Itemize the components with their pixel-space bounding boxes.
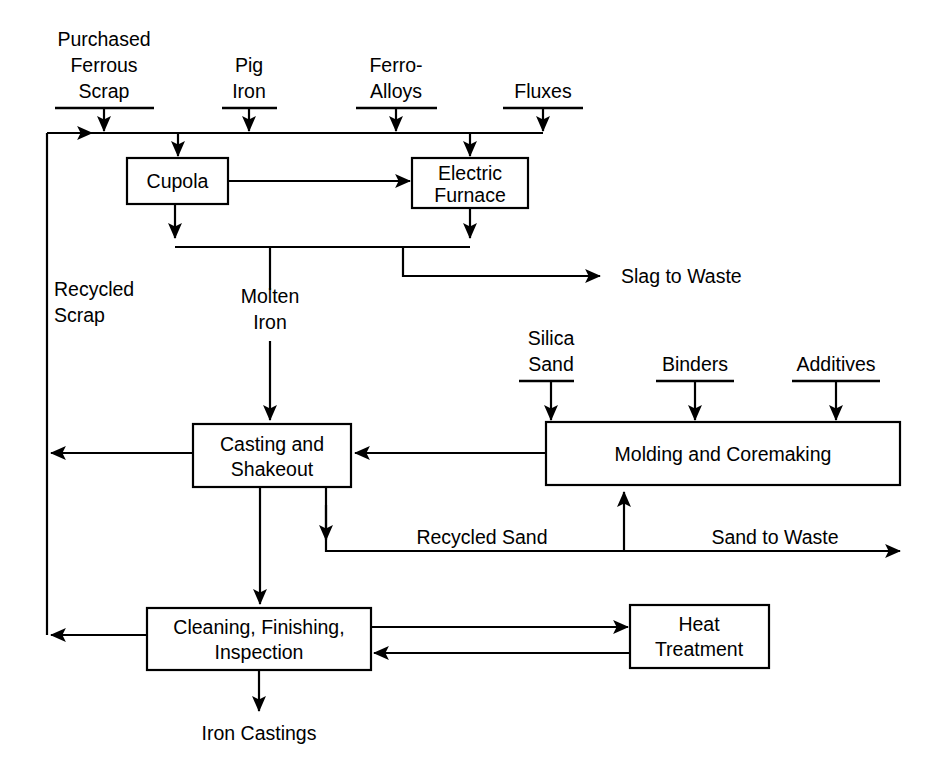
input-label-line: Purchased <box>57 28 150 50</box>
input-label-line: Sand <box>528 353 574 375</box>
box-cleaning-label-line2: Inspection <box>215 641 304 663</box>
input-label-line: Ferro- <box>369 54 422 76</box>
flow-label-molten-iron-line2: Iron <box>253 311 287 333</box>
box-cupola-label: Cupola <box>147 170 209 192</box>
input-label-line: Fluxes <box>514 80 572 102</box>
input-label-binders: Binders <box>656 353 734 381</box>
box-heat-treatment-label-line2: Treatment <box>655 638 744 660</box>
edge-slag-to-waste <box>403 247 600 276</box>
process-flow-diagram: Purchased Ferrous Scrap Pig Iron Ferro- … <box>0 0 937 774</box>
input-label-line: Alloys <box>370 80 422 102</box>
input-label-line: Additives <box>796 353 875 375</box>
input-label-ferro-alloys: Ferro- Alloys <box>356 54 437 108</box>
flow-diagram-canvas: Purchased Ferrous Scrap Pig Iron Ferro- … <box>0 0 937 774</box>
box-cupola[interactable]: Cupola <box>127 158 228 204</box>
flow-label-sand-to-waste: Sand to Waste <box>711 526 838 548</box>
flow-label-molten-iron-line1: Molten <box>241 285 300 307</box>
box-heat-treatment-label-line1: Heat <box>678 613 720 635</box>
input-label-line: Silica <box>528 327 575 349</box>
box-molding-label: Molding and Coremaking <box>615 443 832 465</box>
input-label-line: Iron <box>232 80 266 102</box>
input-label-line: Binders <box>662 353 728 375</box>
input-label-silica-sand: Silica Sand <box>519 327 574 381</box>
flow-label-recycled-sand: Recycled Sand <box>416 526 547 548</box>
input-label-line: Ferrous <box>70 54 137 76</box>
box-electric-furnace-label-line1: Electric <box>438 162 502 184</box>
box-casting-label-line1: Casting and <box>220 433 324 455</box>
input-label-fluxes: Fluxes <box>503 80 583 108</box>
box-heat-treatment[interactable]: Heat Treatment <box>630 605 769 668</box>
box-molding-and-coremaking[interactable]: Molding and Coremaking <box>546 422 900 485</box>
input-label-purchased-ferrous-scrap: Purchased Ferrous Scrap <box>55 28 154 108</box>
input-label-line: Pig <box>235 54 263 76</box>
box-cleaning-label-line1: Cleaning, Finishing, <box>173 616 344 638</box>
box-electric-furnace[interactable]: Electric Furnace <box>412 158 528 208</box>
input-label-line: Scrap <box>79 80 130 102</box>
box-casting-and-shakeout[interactable]: Casting and Shakeout <box>193 424 351 487</box>
flow-label-recycled-scrap-line2: Scrap <box>54 304 105 326</box>
flow-label-slag-to-waste: Slag to Waste <box>621 265 742 287</box>
input-label-additives: Additives <box>792 353 880 381</box>
box-cleaning-finishing-inspection[interactable]: Cleaning, Finishing, Inspection <box>147 608 371 670</box>
box-electric-furnace-label-line2: Furnace <box>434 184 506 206</box>
flow-label-iron-castings: Iron Castings <box>202 722 317 744</box>
box-casting-label-line2: Shakeout <box>231 458 314 480</box>
input-label-pig-iron: Pig Iron <box>222 54 277 108</box>
flow-label-recycled-scrap-line1: Recycled <box>54 278 134 300</box>
